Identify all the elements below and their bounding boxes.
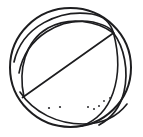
dot-3	[87, 106, 89, 108]
dot-1	[48, 107, 50, 109]
dot-4	[93, 108, 95, 110]
dot-2	[59, 106, 61, 108]
dot-5	[98, 105, 100, 107]
drawing-canvas: Beach ball	[0, 0, 143, 137]
beach-ball-illustration: Beach ball	[0, 0, 143, 137]
dot-6	[103, 100, 105, 102]
dot-7	[109, 97, 111, 99]
